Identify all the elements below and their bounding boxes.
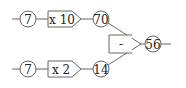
final-result-node: 56: [145, 36, 161, 52]
top-operation-box: x 10: [48, 11, 81, 27]
arithmetic-diagram: 7 x 10 70 7 x 2 14 - 56: [0, 0, 186, 88]
top-input-value: 7: [24, 13, 32, 27]
combine-operation-box: -: [109, 35, 132, 53]
top-operation-label: x 10: [49, 13, 75, 27]
top-result-value: 70: [93, 13, 108, 27]
bottom-input-node: 7: [20, 61, 36, 77]
bottom-result-node: 14: [93, 61, 109, 77]
bottom-operation-label: x 2: [52, 63, 70, 77]
combine-operation-label: -: [119, 37, 123, 51]
top-input-node: 7: [20, 11, 36, 27]
top-result-node: 70: [93, 11, 109, 27]
bottom-result-value: 14: [93, 63, 109, 77]
bottom-operation-box: x 2: [48, 61, 81, 77]
bottom-input-value: 7: [24, 63, 32, 77]
final-result-value: 56: [145, 38, 160, 52]
